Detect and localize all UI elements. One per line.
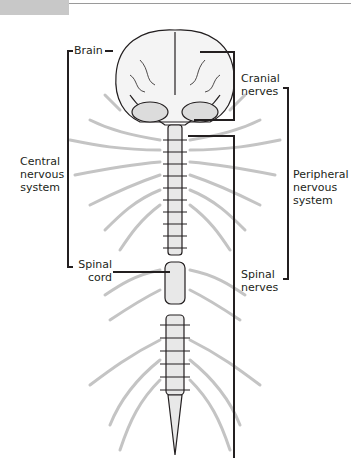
cranial-text-2: nerves [241,85,280,98]
label-cranial-nerves: Cranial nerves [241,72,280,98]
cns-text-2: nervous [20,168,60,181]
brain-text: Brain [74,44,103,57]
pns-bottom-tick [283,278,289,280]
label-spinal-cord: Spinal cord [76,258,112,284]
pns-bracket-vertical [287,87,289,280]
label-peripheral-nervous-system: Peripheral nervous system [293,168,349,207]
cns-bracket-top-tick [67,50,73,52]
brain-icon [116,30,234,125]
label-spinal-nerves: Spinal nerves [241,268,278,294]
cns-bracket-bottom-tick [67,266,73,268]
pns-text-1: Peripheral [293,168,349,181]
spinal-cord-text-1: Spinal [76,258,112,271]
spinal-cord-text-2: cord [76,271,112,284]
cns-text-1: Central [20,155,60,168]
nervous-system-illustration [0,0,351,458]
spinal-cord-icon [160,125,190,455]
cranial-top-leader [200,51,234,53]
cranial-text-1: Cranial [241,72,280,85]
spinal-cord-leader [113,271,170,273]
pns-text-2: nervous [293,181,349,194]
cns-bracket-vertical [67,50,69,268]
pns-text-3: system [293,194,349,207]
spinal-nerves-text-1: Spinal [241,268,278,281]
spinal-nerves-top-leader [188,135,234,137]
cns-text-3: system [20,181,60,194]
label-central-nervous-system: Central nervous system [20,155,60,194]
spinal-nerves-bracket-vertical [233,135,235,458]
brain-leader [105,50,113,52]
spinal-nerves-text-2: nerves [241,281,278,294]
label-brain: Brain [74,44,103,57]
cranial-bracket-vertical [233,51,235,121]
cranial-bottom-leader [194,119,235,121]
